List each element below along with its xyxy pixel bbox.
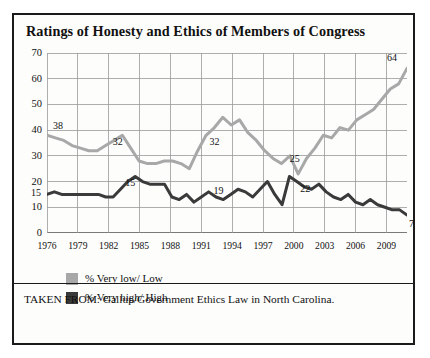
series-line <box>47 68 407 173</box>
data-point-label: 19 <box>214 186 224 196</box>
legend-item-very-low: % Very low/ Low <box>66 270 326 289</box>
y-axis-tick-labels: 010203040506070 <box>18 53 46 243</box>
data-point-label: 22 <box>300 184 310 194</box>
data-point-label: 32 <box>210 137 220 147</box>
data-point-label: 15 <box>31 188 41 198</box>
chart-series-lines <box>47 53 407 233</box>
source-divider <box>14 283 413 284</box>
x-axis-tick-labels: 1976197919821985198819911994199720002003… <box>47 241 427 255</box>
chart-figure-frame: Ratings of Honesty and Ethics of Members… <box>12 13 415 345</box>
plot-area: 3832322564151519227 <box>47 53 407 233</box>
source-note: TAKEN FROM: Gallup/Government Ethics Law… <box>24 292 404 307</box>
y-axis-tick: 50 <box>18 99 42 109</box>
data-point-label: 32 <box>113 137 123 147</box>
data-point-label: 25 <box>290 154 300 164</box>
data-point-label: 64 <box>387 53 397 63</box>
data-point-label: 38 <box>53 121 63 131</box>
y-axis-tick: 20 <box>18 177 42 187</box>
series-line <box>47 176 407 215</box>
chart-title: Ratings of Honesty and Ethics of Members… <box>26 23 406 45</box>
x-axis-tick: 2009 <box>366 241 406 251</box>
y-axis-tick: 70 <box>18 48 42 58</box>
data-point-label: 15 <box>125 178 135 188</box>
y-axis-tick: 60 <box>18 74 42 84</box>
y-axis-tick: 30 <box>18 151 42 161</box>
y-axis-tick: 10 <box>18 202 42 212</box>
data-point-label: 7 <box>409 219 414 229</box>
y-axis-tick: 40 <box>18 125 42 135</box>
y-axis-tick: 0 <box>18 228 42 238</box>
